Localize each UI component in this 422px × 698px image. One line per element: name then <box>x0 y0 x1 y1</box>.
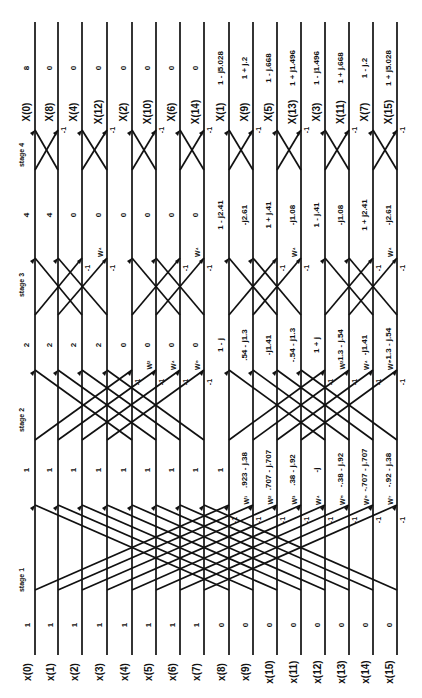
stage-label: stage 4 <box>18 143 26 167</box>
twiddle-factor: W⁴ <box>194 246 201 257</box>
twiddle-factor: W⁴ <box>363 359 370 370</box>
input-label: x(5) <box>143 663 154 681</box>
output-value: 0 <box>119 65 128 70</box>
input-value: 0 <box>385 622 394 627</box>
twiddle-factor: W¹ <box>243 495 250 505</box>
stage1-value: 1 <box>216 467 225 472</box>
output-label: X(4) <box>68 103 79 122</box>
stage1-value: 1 <box>143 467 152 472</box>
minus-one-marker: -1 <box>303 517 310 523</box>
stage1-value: .923 - j.38 <box>240 451 249 488</box>
minus-one-marker: -1 <box>231 517 238 523</box>
input-value: 0 <box>337 622 346 627</box>
minus-one-marker: -1 <box>327 379 334 385</box>
stage1-value: .38 - j.92 <box>288 454 297 486</box>
stage3-value: 1 - j2.41 <box>216 200 225 230</box>
input-label: x(9) <box>240 663 251 681</box>
output-value: 8 <box>22 65 31 70</box>
minus-one-marker: -1 <box>327 517 334 523</box>
output-value: 1 + j1.496 <box>288 50 297 86</box>
minus-one-marker: -1 <box>134 379 141 385</box>
stage2-value: 2 <box>22 342 31 347</box>
minus-one-marker: -1 <box>109 265 116 271</box>
output-value: 0 <box>94 65 103 70</box>
twiddle-factor: W⁴ <box>387 246 394 257</box>
input-value: 1 <box>144 622 153 627</box>
output-value: 0 <box>191 65 200 70</box>
stage3-value: 1 + j.41 <box>264 201 273 228</box>
stage3-value: 0 <box>143 212 152 217</box>
minus-one-marker: -1 <box>375 517 382 523</box>
output-value: 1 - j.668 <box>264 53 273 83</box>
output-value: 0 <box>143 65 152 70</box>
minus-one-marker: -1 <box>206 265 213 271</box>
output-label: X(1) <box>215 103 226 122</box>
stage2-value: 0 <box>167 342 176 347</box>
minus-one-marker: -1 <box>375 265 382 271</box>
stage2-value: 1.3 - j.54 <box>336 329 345 361</box>
stage3-value: 4 <box>22 212 31 217</box>
minus-one-marker: -1 <box>399 517 406 523</box>
stage-label: stage 3 <box>18 273 26 297</box>
stage1-value: -j <box>312 468 321 473</box>
input-label: x(11) <box>288 661 299 684</box>
output-label: X(13) <box>287 100 298 124</box>
minus-one-marker: -1 <box>158 379 165 385</box>
input-value: 1 <box>168 622 177 627</box>
stage3-value: 4 <box>45 212 54 217</box>
input-label: x(2) <box>69 663 80 681</box>
input-value: 1 <box>46 622 55 627</box>
minus-one-marker: -1 <box>303 127 310 133</box>
output-label: X(3) <box>311 103 322 122</box>
twiddle-factor: W³ <box>291 495 298 505</box>
stage3-value: 0 <box>191 212 200 217</box>
stage1-value: .707 - j.707 <box>264 449 273 490</box>
stage3-value: 0 <box>119 212 128 217</box>
minus-one-marker: -1 <box>206 379 213 385</box>
twiddle-factor: W⁶ <box>363 495 370 505</box>
stage3-value: -j1.08 <box>336 204 345 225</box>
minus-one-marker: -1 <box>399 379 406 385</box>
input-label: x(15) <box>384 660 395 683</box>
output-value: 1 + j.668 <box>336 52 345 84</box>
stage3-value: 1 + j2.41 <box>360 199 369 231</box>
output-label: X(12) <box>93 100 104 124</box>
stage2-value: .54 - j1.3 <box>240 329 249 361</box>
stage2-value: 2 <box>45 342 54 347</box>
minus-one-marker: -1 <box>351 517 358 523</box>
fft-butterfly-diagram: x(0)x(1)x(2)x(3)x(4)x(5)x(6)x(7)x(8)x(9)… <box>0 0 422 698</box>
stage3-value: 0 <box>167 212 176 217</box>
input-value: 0 <box>265 622 274 627</box>
stage1-value: 1 <box>167 467 176 472</box>
minus-one-marker: -1 <box>206 127 213 133</box>
output-value: 1 + j.2 <box>240 56 249 79</box>
stage3-value: -j2.61 <box>240 204 249 225</box>
twiddle-factor: W⁴ <box>315 494 322 505</box>
output-label: X(5) <box>263 103 274 122</box>
stage1-value: -.707 - j.707 <box>360 448 369 492</box>
minus-one-marker: -1 <box>279 517 286 523</box>
input-value: 0 <box>217 622 226 627</box>
input-label: x(3) <box>94 663 105 681</box>
minus-one-marker: -1 <box>158 127 165 133</box>
input-label: x(8) <box>216 663 227 681</box>
stage2-value: 0 <box>119 342 128 347</box>
minus-one-marker: -1 <box>351 379 358 385</box>
input-value: 1 <box>70 622 79 627</box>
input-label: x(13) <box>336 660 347 683</box>
stage-label: stage 1 <box>18 568 26 592</box>
minus-one-marker: -1 <box>255 127 262 133</box>
output-label: X(8) <box>44 103 55 122</box>
twiddle-factor: W⁷ <box>387 495 394 505</box>
minus-one-marker: -1 <box>182 379 189 385</box>
input-value: 1 <box>120 622 129 627</box>
twiddle-factor: W⁶ <box>387 360 394 370</box>
minus-one-marker: -1 <box>84 265 91 271</box>
input-label: x(14) <box>360 660 371 683</box>
output-value: 1 - j1.496 <box>312 51 321 85</box>
output-value: 0 <box>69 65 78 70</box>
stage1-value: 1 <box>119 467 128 472</box>
input-label: x(0) <box>22 663 33 681</box>
stage3-value: 0 <box>69 212 78 217</box>
input-value: 0 <box>313 622 322 627</box>
